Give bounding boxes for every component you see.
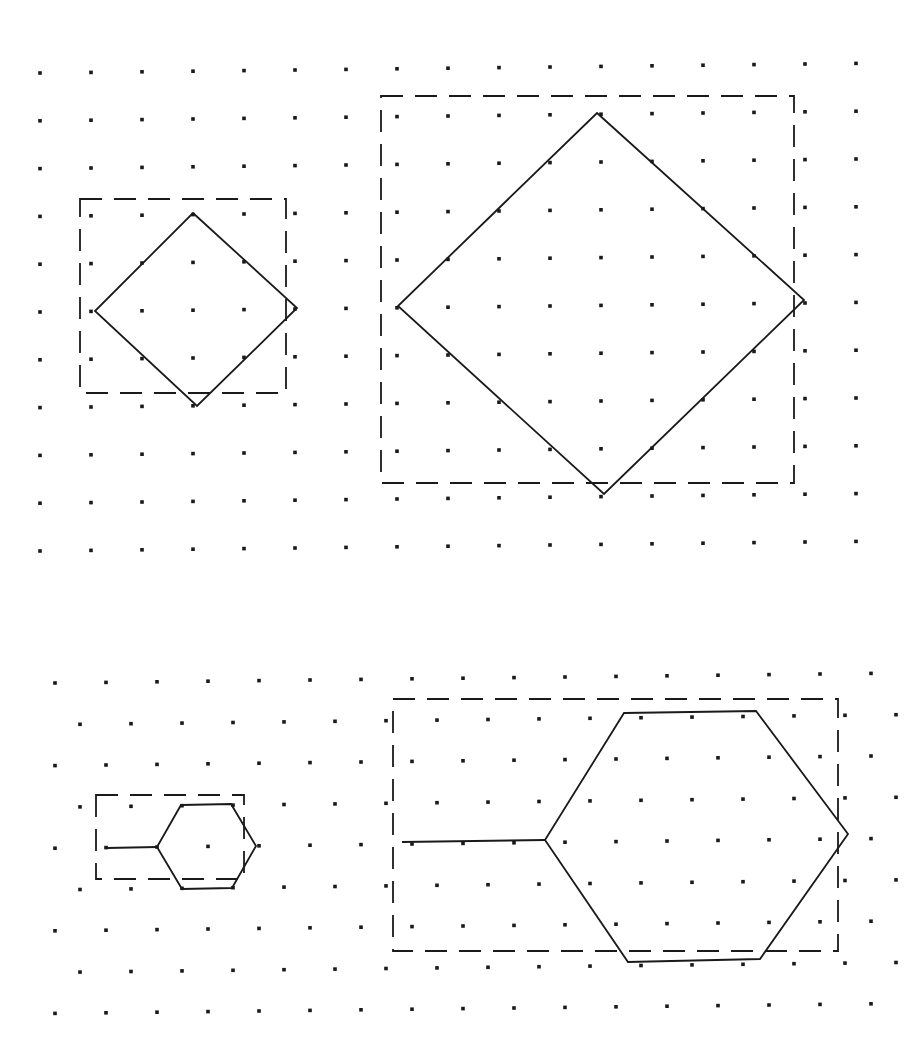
- grid-dot: [257, 927, 261, 931]
- grid-dot: [344, 211, 348, 215]
- grid-dot: [512, 676, 516, 680]
- grid-dot: [410, 760, 414, 764]
- grid-dot: [614, 922, 618, 926]
- grid-dot: [38, 310, 42, 314]
- grid-dot: [38, 501, 42, 505]
- grid-dot: [818, 755, 822, 759]
- grid-dot: [435, 718, 439, 722]
- grid-dot: [446, 114, 450, 118]
- grid-dot: [869, 754, 873, 758]
- grid-dot: [803, 349, 807, 353]
- large-diamond-figure: [381, 96, 804, 494]
- grid-dot: [38, 119, 42, 123]
- grid-dot: [89, 549, 93, 553]
- grid-dot: [854, 109, 858, 113]
- grid-dot: [894, 961, 898, 965]
- grid-dot: [818, 837, 822, 841]
- large-diamond-bounding-box: [381, 96, 794, 483]
- grid-dot: [854, 157, 858, 161]
- small-diamond: [95, 213, 297, 406]
- grid-dot: [752, 111, 756, 115]
- grid-dot: [497, 400, 501, 404]
- grid-dot: [293, 259, 297, 263]
- grid-dot: [344, 307, 348, 311]
- grid-dot: [803, 110, 807, 114]
- large-diamond: [398, 113, 804, 494]
- grid-dot: [497, 257, 501, 261]
- grid-dot: [614, 1005, 618, 1009]
- grid-dot: [599, 160, 603, 164]
- grid-dot: [665, 757, 669, 761]
- grid-dot: [894, 878, 898, 882]
- grid-dot: [89, 501, 93, 505]
- grid-dot: [548, 543, 552, 547]
- grid-dot: [446, 162, 450, 166]
- grid-dot: [395, 115, 399, 119]
- grid-dot: [512, 924, 516, 928]
- grid-dot: [191, 452, 195, 456]
- grid-dot: [537, 965, 541, 969]
- grid-dot: [308, 843, 312, 847]
- grid-dot: [854, 253, 858, 257]
- grid-dot: [767, 755, 771, 759]
- grid-dot: [38, 71, 42, 75]
- grid-dot: [140, 405, 144, 409]
- grid-dot: [599, 65, 603, 69]
- grid-dot: [78, 723, 82, 727]
- grid-dot: [563, 923, 567, 927]
- grid-dot: [395, 354, 399, 358]
- grid-dot: [752, 397, 756, 401]
- grid-dot: [333, 720, 337, 724]
- grid-dot: [344, 498, 348, 502]
- grid-dot: [395, 210, 399, 214]
- grid-dot: [140, 548, 144, 552]
- grid-dot: [89, 405, 93, 409]
- grid-dot: [599, 256, 603, 260]
- grid-dot: [446, 449, 450, 453]
- grid-dot: [384, 884, 388, 888]
- grid-dot: [344, 115, 348, 119]
- grid-dot: [614, 675, 618, 679]
- grid-dot: [384, 802, 388, 806]
- grid-dot: [639, 881, 643, 885]
- grid-dot: [563, 840, 567, 844]
- small-hexagon-figure: [96, 795, 256, 889]
- grid-dot: [242, 117, 246, 121]
- grid-dot: [767, 673, 771, 677]
- grid-dot: [333, 967, 337, 971]
- grid-dot: [395, 67, 399, 71]
- grid-dot: [537, 882, 541, 886]
- grid-dot: [548, 400, 552, 404]
- grid-dot: [242, 499, 246, 503]
- grid-dot: [650, 351, 654, 355]
- grid-dot: [38, 167, 42, 171]
- grid-dot: [588, 717, 592, 721]
- grid-dot: [38, 406, 42, 410]
- grid-dot: [242, 164, 246, 168]
- grid-dot: [53, 929, 57, 933]
- grid-dot: [78, 805, 82, 809]
- grid-dot: [78, 888, 82, 892]
- grid-dot: [104, 928, 108, 932]
- grid-dot: [446, 497, 450, 501]
- grid-dot: [293, 116, 297, 120]
- grid-dot: [359, 1008, 363, 1012]
- grid-dot: [461, 842, 465, 846]
- grid-dot: [701, 350, 705, 354]
- grid-dot: [752, 302, 756, 306]
- grid-dot: [140, 309, 144, 313]
- grid-dot: [650, 494, 654, 498]
- grid-dot: [803, 301, 807, 305]
- grid-dot: [282, 968, 286, 972]
- grid-dot: [843, 879, 847, 883]
- grid-dot: [155, 763, 159, 767]
- grid-dot: [293, 546, 297, 550]
- grid-dot: [191, 117, 195, 121]
- grid-dot: [333, 802, 337, 806]
- small-diamond-figure: [80, 199, 297, 406]
- grid-dot: [792, 962, 796, 966]
- grid-dot: [854, 540, 858, 544]
- square-dot-grid: [38, 62, 858, 553]
- grid-dot: [497, 161, 501, 165]
- grid-dot: [38, 358, 42, 362]
